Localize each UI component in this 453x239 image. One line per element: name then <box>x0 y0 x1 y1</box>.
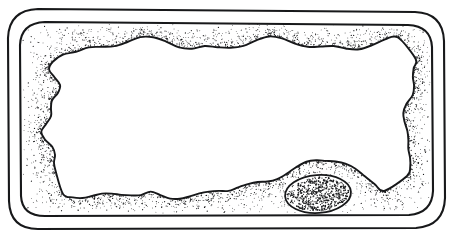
cell-diagram-figure <box>0 0 453 239</box>
cell-diagram-canvas <box>0 0 453 239</box>
